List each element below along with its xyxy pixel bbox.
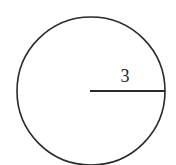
radius-label: 3 [121,66,130,86]
circle-diagram: 3 [0,0,176,165]
